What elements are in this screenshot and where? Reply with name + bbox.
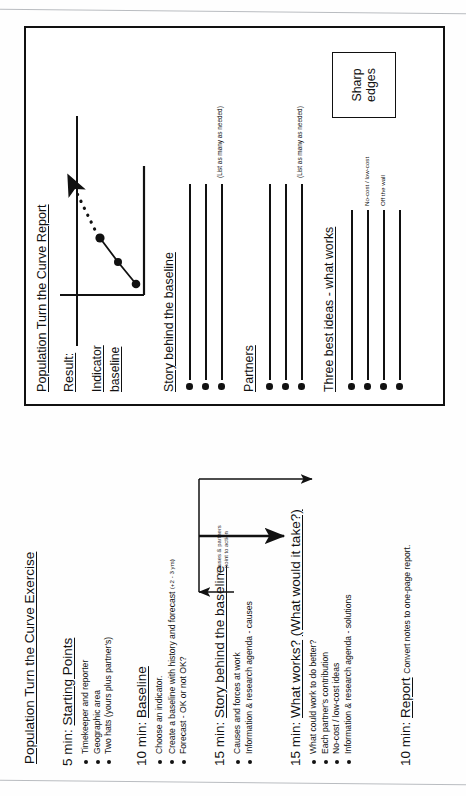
chart-point <box>132 280 141 289</box>
list-item: Two hats (yours plus partner's) <box>103 637 115 766</box>
block-bullets-starting-points: Timekeeper and reporter Geographic area … <box>80 637 115 766</box>
exercise-block-baseline: 10 min: Baseline Choose an indicator. Cr… <box>134 559 190 766</box>
write-in-slot[interactable] <box>269 184 271 380</box>
list-item: Information & research agenda - solution… <box>343 509 355 766</box>
list-item: What could work to do better? <box>308 509 320 766</box>
section-hint-story: (List as many as needed) <box>216 106 223 178</box>
exercise-panel: Population Turn the Curve Exercise 5 min… <box>16 418 448 770</box>
flow-annotation-line-2: point to action <box>223 525 230 574</box>
exercise-block-report: 10 min: Report Convert notes to one-page… <box>398 545 415 766</box>
block-heading-report: 10 min: Report Convert notes to one-page… <box>398 545 415 766</box>
page-edge-top <box>0 9 466 14</box>
slot-label-off-the-wall: Off the wall <box>379 175 386 206</box>
block-bullets-story: Causes and forces at work Information & … <box>232 566 255 766</box>
sharp-edges-box: Sharp edges <box>332 52 396 118</box>
report-trailing-note: Convert notes to one-page report. <box>402 545 412 674</box>
forecast-horizon-note: (+2 - 3 yrs) <box>168 559 175 589</box>
block-title: What works? <box>288 640 303 718</box>
block-bullets-what-works: What could work to do better? Each partn… <box>308 509 354 766</box>
bullet-dot <box>218 384 225 391</box>
bullet-dot <box>282 384 289 391</box>
bullet-dot <box>266 384 273 391</box>
report-title: Population Turn the Curve Report <box>35 204 49 392</box>
list-item: Forecast - OK or not OK? <box>178 559 190 766</box>
baseline-label: baseline <box>108 347 122 392</box>
chart-forecast-dotted-arrow <box>68 175 98 236</box>
chart-point <box>114 258 122 266</box>
list-item: Choose an indicator. <box>154 559 166 766</box>
bullet-dot <box>186 384 193 391</box>
bullet-dot <box>396 384 403 391</box>
sharp-edges-line-2: edges <box>364 68 378 102</box>
list-item: No-cost / low-cost ideas <box>331 509 343 766</box>
section-heading-best-ideas: Three best ideas - what works <box>322 227 336 392</box>
block-time: 15 min: <box>288 722 303 766</box>
block-title: Report <box>398 677 413 718</box>
write-in-slot[interactable] <box>399 210 401 380</box>
list-item: Geographic area <box>92 637 104 766</box>
exercise-title: Population Turn the Curve Exercise <box>22 552 37 764</box>
report-result-label: Result: <box>62 353 76 392</box>
block-heading-baseline: 10 min: Baseline <box>134 559 149 766</box>
exercise-block-what-works: 15 min: What works? (What would it take?… <box>288 509 354 766</box>
bullet-dot <box>348 384 355 391</box>
exercise-block-story: 15 min: Story behind the baseline Causes… <box>212 566 255 766</box>
block-time: 15 min: <box>212 722 227 766</box>
list-item-text: Create a baseline with history and forec… <box>167 592 177 754</box>
bullet-dot <box>202 384 209 391</box>
write-in-slot[interactable] <box>367 210 369 380</box>
block-heading-what-works: 15 min: What works? (What would it take?… <box>288 509 303 766</box>
list-item: Information & research agenda - causes <box>244 566 256 766</box>
list-item: Causes and forces at work <box>232 566 244 766</box>
write-in-slot[interactable] <box>205 184 207 380</box>
sharp-edges-line-1: Sharp <box>350 68 364 101</box>
write-in-slot[interactable] <box>351 210 353 380</box>
write-in-slot[interactable] <box>301 184 303 380</box>
block-title: Starting Points <box>60 638 75 726</box>
bullet-dot <box>298 384 305 391</box>
slot-label-no-cost: No-cost / low-cost <box>363 157 370 206</box>
exercise-block-starting-points: 5 min: Starting Points Timekeeper and re… <box>60 637 115 766</box>
section-heading-partners: Partners <box>242 345 256 392</box>
list-item: Each partner's contribution <box>320 509 332 766</box>
section-heading-story: Story behind the baseline <box>162 252 176 392</box>
block-bullets-baseline: Choose an indicator. Create a baseline w… <box>154 559 190 766</box>
flow-annotation: Causes & partners point to action <box>216 525 230 574</box>
block-title: Baseline <box>134 666 149 718</box>
block-title-suffix: (What would it take?) <box>288 509 303 636</box>
block-time: 10 min: <box>398 722 413 766</box>
list-item: Create a baseline with history and forec… <box>166 559 179 766</box>
write-in-slot[interactable] <box>383 210 385 380</box>
flow-annotation-line-1: Causes & partners <box>216 525 223 574</box>
write-in-slot[interactable] <box>221 184 223 380</box>
bullet-dot <box>380 384 387 391</box>
rotated-content-stage: Population Turn the Curve Exercise 5 min… <box>10 18 456 778</box>
report-form-panel: Population Turn the Curve Report Result:… <box>24 26 445 406</box>
block-heading-story: 15 min: Story behind the baseline <box>212 566 227 766</box>
bullet-dot <box>364 384 371 391</box>
block-time: 10 min: <box>134 722 149 766</box>
list-item: Timekeeper and reporter <box>80 637 92 766</box>
scanned-page: Population Turn the Curve Exercise 5 min… <box>0 0 466 796</box>
block-heading-starting-points: 5 min: Starting Points <box>60 637 75 766</box>
page-edge-bottom <box>0 780 466 785</box>
indicator-label: Indicator <box>90 345 104 392</box>
section-hint-partners: (List as many as needed) <box>296 106 303 178</box>
block-time: 5 min: <box>60 729 75 766</box>
write-in-slot[interactable] <box>285 184 287 380</box>
block-title: Story behind the baseline <box>212 566 227 718</box>
result-label-text: Result: <box>62 353 76 392</box>
write-in-slot[interactable] <box>189 184 191 380</box>
indicator-baseline-chart <box>56 158 152 308</box>
